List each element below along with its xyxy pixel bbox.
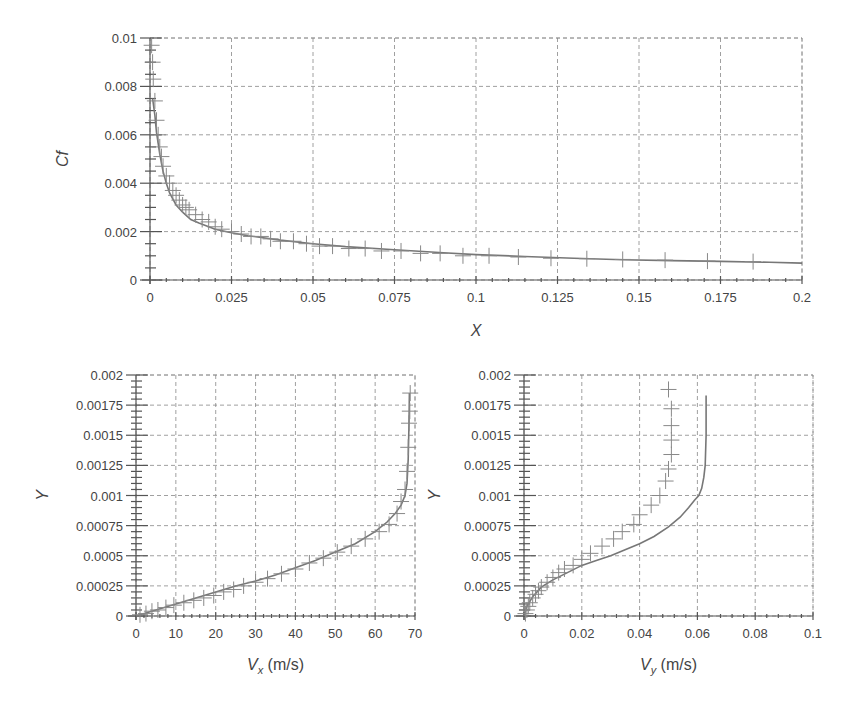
y-tick-label: 0.0005 bbox=[471, 549, 511, 564]
y-tick-label: 0.00125 bbox=[464, 458, 511, 473]
x-tick-label: 0.1 bbox=[804, 626, 822, 641]
y-tick-label: 0 bbox=[130, 273, 137, 288]
y-tick-label: 0.00075 bbox=[76, 519, 123, 534]
y-axis-label: Cf bbox=[54, 149, 71, 167]
x-tick-label: 70 bbox=[408, 626, 422, 641]
x-tick-label: 10 bbox=[169, 626, 183, 641]
x-tick-label: 0.02 bbox=[569, 626, 594, 641]
y-tick-label: 0.008 bbox=[104, 79, 137, 94]
x-tick-label: 60 bbox=[368, 626, 382, 641]
y-tick-label: 0.00025 bbox=[464, 579, 511, 594]
x-tick-label: 0.08 bbox=[743, 626, 768, 641]
x-tick-label: 0.05 bbox=[300, 290, 325, 305]
y-tick-label: 0.004 bbox=[104, 176, 137, 191]
figure: 00.0250.050.0750.10.1250.150.1750.200.00… bbox=[0, 0, 857, 710]
x-tick-label: 0 bbox=[146, 290, 153, 305]
y-tick-label: 0.00025 bbox=[76, 579, 123, 594]
y-axis-label: Y bbox=[426, 489, 443, 501]
y-tick-label: 0 bbox=[504, 609, 511, 624]
y-tick-label: 0.002 bbox=[478, 368, 511, 383]
x-tick-label: 0.1 bbox=[467, 290, 485, 305]
x-tick-label: 0 bbox=[520, 626, 527, 641]
x-axis-label: Vy (m/s) bbox=[640, 656, 697, 676]
x-tick-label: 0.15 bbox=[626, 290, 651, 305]
y-tick-label: 0.0015 bbox=[471, 428, 511, 443]
y-tick-label: 0.01 bbox=[112, 31, 137, 46]
x-tick-label: 50 bbox=[328, 626, 342, 641]
x-tick-label: 0.175 bbox=[704, 290, 737, 305]
y-tick-label: 0.00175 bbox=[76, 398, 123, 413]
x-tick-label: 0.025 bbox=[215, 290, 248, 305]
y-tick-label: 0.00175 bbox=[464, 398, 511, 413]
plot-frame bbox=[136, 375, 415, 616]
y-tick-label: 0.001 bbox=[478, 489, 511, 504]
reference-markers bbox=[517, 381, 679, 621]
y-tick-label: 0.0015 bbox=[83, 428, 123, 443]
y-tick-label: 0.00075 bbox=[464, 519, 511, 534]
computed-curve bbox=[136, 393, 409, 616]
y-tick-label: 0.00125 bbox=[76, 458, 123, 473]
vy-profile-chart: 00.020.040.060.080.100.000250.00050.0007… bbox=[426, 368, 822, 676]
y-tick-label: 0 bbox=[116, 609, 123, 624]
y-tick-label: 0.002 bbox=[104, 225, 137, 240]
x-tick-label: 0 bbox=[132, 626, 139, 641]
x-tick-label: 20 bbox=[208, 626, 222, 641]
computed-curve bbox=[153, 99, 802, 264]
cf-chart: 00.0250.050.0750.10.1250.150.1750.200.00… bbox=[54, 31, 811, 339]
x-tick-label: 0.075 bbox=[378, 290, 411, 305]
y-tick-label: 0.006 bbox=[104, 128, 137, 143]
computed-curve bbox=[524, 396, 706, 617]
x-tick-label: 40 bbox=[288, 626, 302, 641]
x-axis-label: X bbox=[470, 322, 483, 339]
x-tick-label: 0.04 bbox=[627, 626, 652, 641]
x-tick-label: 0.06 bbox=[685, 626, 710, 641]
vx-profile-chart: 01020304050607000.000250.00050.000750.00… bbox=[34, 368, 422, 676]
reference-markers bbox=[144, 37, 761, 269]
y-tick-label: 0.002 bbox=[90, 368, 123, 383]
x-axis-label: Vx (m/s) bbox=[247, 656, 304, 676]
x-tick-label: 0.2 bbox=[793, 290, 811, 305]
y-tick-label: 0.0005 bbox=[83, 549, 123, 564]
y-tick-label: 0.001 bbox=[90, 489, 123, 504]
x-tick-label: 30 bbox=[248, 626, 262, 641]
x-tick-label: 0.125 bbox=[541, 290, 574, 305]
y-axis-label: Y bbox=[34, 489, 51, 501]
